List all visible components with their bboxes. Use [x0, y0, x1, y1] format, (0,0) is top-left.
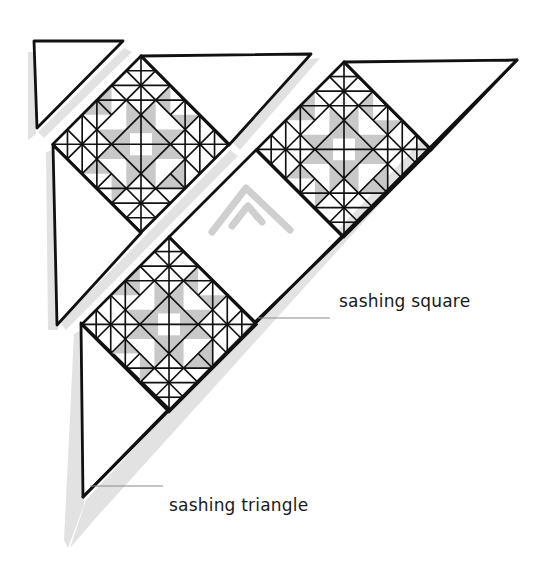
- label-sashing-triangle: sashing triangle: [169, 495, 308, 515]
- label-sashing-square: sashing square: [339, 291, 470, 311]
- quilt-diagram: [0, 0, 542, 578]
- corner-triangle: [34, 41, 123, 128]
- sashing-square: [169, 150, 343, 322]
